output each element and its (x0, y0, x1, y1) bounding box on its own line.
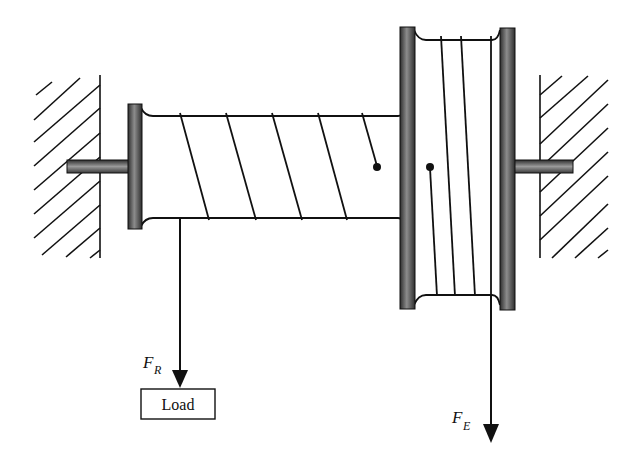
effort-arrow (483, 296, 499, 443)
rope-anchor-large (426, 163, 434, 171)
large-drum-coils (430, 36, 491, 420)
effort-force-subscript: E (462, 419, 471, 433)
windlass-diagram: F R Load F E (0, 0, 642, 459)
load-force-subscript: R (153, 363, 162, 377)
large-drum-flange-right (500, 28, 515, 310)
right-axle (513, 160, 573, 173)
small-drum-flange (128, 104, 142, 229)
small-drum-coils (180, 113, 377, 220)
small-drum (141, 108, 404, 226)
large-drum-flange-left (400, 27, 415, 309)
load-force-label: F (142, 353, 154, 372)
load-arrow (172, 219, 188, 388)
effort-force-label: F (451, 408, 463, 427)
rope-anchor-small (373, 163, 381, 171)
load-box-label: Load (162, 396, 195, 413)
left-axle (67, 160, 129, 173)
